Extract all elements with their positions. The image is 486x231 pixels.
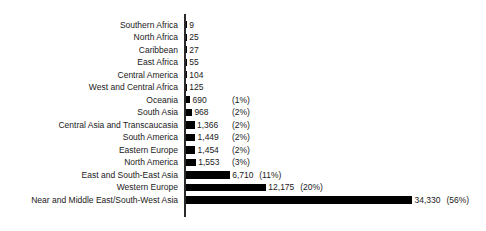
category-label: Near and Middle East/South-West Asia <box>0 194 178 207</box>
bar-percent-label: (2%) <box>232 119 250 132</box>
bar-row: Oceania690(1%) <box>0 94 486 107</box>
bar-row: Central America104 <box>0 69 486 82</box>
category-label: Central America <box>0 69 178 82</box>
bar-value-label: 9 <box>189 19 194 32</box>
bar-percent-label: (11%) <box>259 169 281 182</box>
bar-value-label: 12,175 <box>268 181 294 194</box>
bar-percent-label: (3%) <box>232 156 250 169</box>
category-label: South Asia <box>0 106 178 119</box>
bar-value-label: 27 <box>189 44 198 57</box>
bar-percent-label: (20%) <box>300 181 323 194</box>
bar <box>186 171 230 178</box>
category-label: South America <box>0 131 178 144</box>
category-label: Oceania <box>0 94 178 107</box>
category-label: Caribbean <box>0 44 178 57</box>
category-label: Southern Africa <box>0 19 178 32</box>
category-label: West and Central Africa <box>0 81 178 94</box>
bar-row: Central Asia and Transcaucasia1,366(2%) <box>0 119 486 132</box>
bar-percent-label: (2%) <box>232 131 250 144</box>
bar <box>186 71 187 78</box>
bar <box>186 109 192 116</box>
bar <box>186 34 187 41</box>
bar-row: South Asia968(2%) <box>0 106 486 119</box>
bar-percent-label: (2%) <box>232 144 250 157</box>
bar-value-label: 25 <box>189 31 198 44</box>
category-label: Western Europe <box>0 181 178 194</box>
bar-row: Southern Africa9 <box>0 19 486 32</box>
bar <box>186 84 187 91</box>
bar-value-label: 6,710 <box>232 169 253 182</box>
category-label: North America <box>0 156 178 169</box>
bar-percent-label: (1%) <box>232 94 250 107</box>
bar <box>186 21 187 28</box>
bar <box>186 96 191 103</box>
bar-value-label: 104 <box>189 69 203 82</box>
bar-row: South America1,449(2%) <box>0 131 486 144</box>
bar-row: North Africa25 <box>0 31 486 44</box>
category-label: Central Asia and Transcaucasia <box>0 119 178 132</box>
bar-row: North America1,553(3%) <box>0 156 486 169</box>
bar <box>186 159 196 166</box>
bar <box>186 196 413 203</box>
horizontal-bar-chart: Southern Africa9North Africa25Caribbean2… <box>0 0 486 231</box>
bar <box>186 121 195 128</box>
category-label: North Africa <box>0 31 178 44</box>
bar-value-label: 1,553 <box>198 156 219 169</box>
bar-value-label: 1,454 <box>198 144 219 157</box>
bar-value-label: 968 <box>194 106 208 119</box>
bar-value-label: 1,366 <box>197 119 218 132</box>
bar <box>186 59 187 66</box>
bar-row: Western Europe12,175(20%) <box>0 181 486 194</box>
category-label: East Africa <box>0 56 178 69</box>
bar <box>186 46 187 53</box>
bar-value-label: 34,330 <box>415 194 441 207</box>
bar <box>186 134 196 141</box>
bar-value-label: 55 <box>189 56 198 69</box>
category-label: East and South-East Asia <box>0 169 178 182</box>
bar-value-label: 690 <box>193 94 207 107</box>
bar-row: Near and Middle East/South-West Asia34,3… <box>0 194 486 207</box>
bar-row: Caribbean27 <box>0 44 486 57</box>
bar <box>186 184 266 191</box>
bar <box>186 146 196 153</box>
bar-value-label: 1,449 <box>198 131 219 144</box>
bar-row: West and Central Africa125 <box>0 81 486 94</box>
bar-row: Eastern Europe1,454(2%) <box>0 144 486 157</box>
bar-percent-label: (2%) <box>232 106 250 119</box>
category-label: Eastern Europe <box>0 144 178 157</box>
bar-row: East and South-East Asia6,710(11%) <box>0 169 486 182</box>
bar-percent-label: (56%) <box>446 194 469 207</box>
bar-row: East Africa55 <box>0 56 486 69</box>
bar-value-label: 125 <box>189 81 203 94</box>
